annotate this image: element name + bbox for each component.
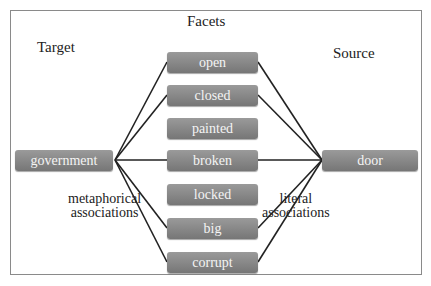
facet-broken: broken [167, 150, 258, 171]
literal-associations-label: literal associations [262, 192, 330, 220]
annotation-line: literal [262, 192, 330, 206]
annotation-line: metaphorical [68, 192, 141, 206]
facet-open: open [167, 52, 258, 73]
annotation-line: associations [68, 206, 141, 220]
facet-painted: painted [167, 118, 258, 139]
edge-government-open [115, 62, 167, 160]
facet-locked: locked [167, 184, 258, 205]
source-node-door: door [322, 150, 418, 171]
target-heading: Target [37, 39, 75, 56]
target-node-government: government [15, 150, 113, 171]
facet-big: big [167, 218, 258, 239]
metaphorical-associations-label: metaphorical associations [68, 192, 141, 220]
edge-door-open [258, 62, 322, 160]
annotation-line: associations [262, 206, 330, 220]
edge-government-closed [115, 95, 167, 160]
facets-heading: Facets [187, 13, 225, 30]
facet-corrupt: corrupt [167, 252, 258, 273]
edge-door-closed [258, 95, 322, 160]
facet-closed: closed [167, 85, 258, 106]
source-heading: Source [333, 45, 375, 62]
